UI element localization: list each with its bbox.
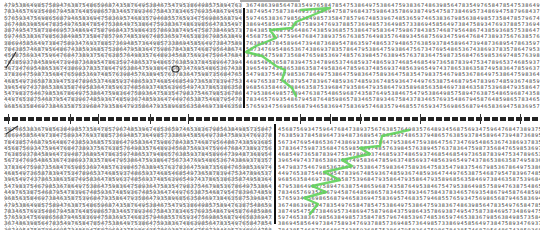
separator-tick xyxy=(70,114,71,124)
separator-tick xyxy=(188,114,189,124)
separator-tick xyxy=(520,114,521,124)
separator-tick xyxy=(98,114,99,124)
separator-tick xyxy=(300,114,301,124)
separator-tick xyxy=(150,114,151,124)
pencil-mark-slash xyxy=(6,52,16,68)
separator-tick xyxy=(360,114,361,124)
separator-tick xyxy=(420,114,421,124)
pencil-mark-circle xyxy=(172,66,179,72)
pencil-marks xyxy=(6,52,179,134)
pencil-mark-slash xyxy=(6,126,18,134)
annotation-overlay xyxy=(0,0,543,232)
separator-tick xyxy=(8,114,9,124)
separator-tick xyxy=(330,114,331,124)
highlighter-trace-top xyxy=(246,8,330,96)
separator-tick xyxy=(480,114,481,124)
highlighter-trace-bottom xyxy=(304,130,409,214)
